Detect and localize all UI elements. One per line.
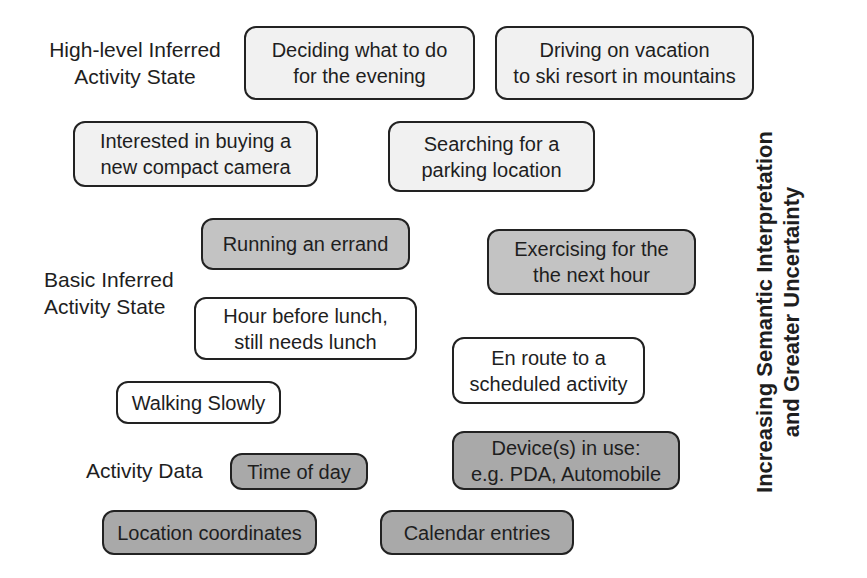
level-label-basic-line1: Basic Inferred <box>44 266 174 293</box>
level-label-high-line1: High-level Inferred <box>30 36 240 63</box>
level-label-basic: Basic Inferred Activity State <box>44 266 174 320</box>
level-label-data: Activity Data <box>86 457 203 484</box>
box-deciding-evening: Deciding what to do for the evening <box>244 26 475 100</box>
box-calendar-entries: Calendar entries <box>380 510 574 555</box>
box-en-route: En route to a scheduled activity <box>452 337 645 404</box>
box-hour-before-lunch: Hour before lunch, still needs lunch <box>194 297 417 360</box>
box-searching-parking: Searching for a parking location <box>388 121 595 192</box>
box-interested-camera: Interested in buying a new compact camer… <box>73 121 318 187</box>
box-time-of-day: Time of day <box>230 453 368 490</box>
axis-caption-line1: Increasing Semantic Interpretation <box>751 131 778 493</box>
level-label-high-line2: Activity State <box>30 63 240 90</box>
level-label-high: High-level Inferred Activity State <box>30 36 240 90</box>
box-driving-vacation: Driving on vacation to ski resort in mou… <box>495 26 754 100</box>
box-location-coordinates: Location coordinates <box>102 510 317 555</box>
axis-caption: Increasing Semantic Interpretation and G… <box>751 131 805 493</box>
box-running-errand: Running an errand <box>201 218 410 270</box>
axis-caption-line2: and Greater Uncertainty <box>778 131 805 493</box>
box-exercising: Exercising for the the next hour <box>487 229 696 295</box>
box-walking-slowly: Walking Slowly <box>116 381 281 424</box>
level-label-data-line1: Activity Data <box>86 457 203 484</box>
level-label-basic-line2: Activity State <box>44 293 174 320</box>
box-devices-in-use: Device(s) in use: e.g. PDA, Automobile <box>452 431 680 490</box>
